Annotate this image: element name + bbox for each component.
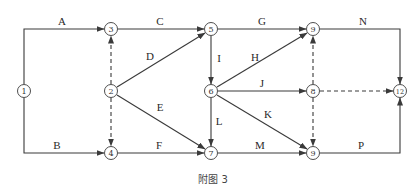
activity-d-label: D	[146, 50, 154, 62]
node-12: 12	[394, 85, 407, 98]
node-3-label: 3	[108, 25, 113, 34]
node-4-label: 4	[108, 149, 113, 158]
node-7-label: 7	[208, 149, 213, 158]
node-9-bottom-label: 9	[310, 149, 315, 158]
node-8-label: 8	[310, 87, 315, 96]
network-diagram: 1 2 3 4 5 6 7 9	[0, 0, 420, 193]
node-2-label: 2	[108, 87, 113, 96]
node-1-label: 1	[21, 87, 26, 96]
activity-e-label: E	[157, 101, 164, 113]
activity-g-label: G	[258, 15, 266, 27]
activity-h-label: H	[251, 51, 259, 63]
activity-m-label: M	[255, 139, 265, 151]
activity-j-label: J	[260, 77, 265, 89]
activity-a-label: A	[58, 15, 66, 27]
node-4: 4	[105, 147, 118, 160]
activity-i-label: I	[217, 52, 221, 64]
node-5: 5	[205, 23, 218, 36]
activity-n-arrow	[320, 29, 400, 84]
node-9-top: 9	[307, 23, 320, 36]
activity-n-label: N	[359, 15, 367, 27]
activity-p-label: P	[358, 139, 364, 151]
activity-b-label: B	[53, 139, 60, 151]
activity-d-arrow	[117, 33, 205, 87]
node-9-bottom: 9	[307, 147, 320, 160]
activity-c-label: C	[156, 15, 163, 27]
node-8: 8	[307, 85, 320, 98]
figure-caption: 附图 3	[198, 173, 228, 185]
node-7: 7	[205, 147, 218, 160]
node-6: 6	[205, 85, 218, 98]
activity-a-arrow	[24, 29, 104, 84]
activity-k-label: K	[264, 108, 272, 120]
activity-b-arrow	[24, 98, 104, 153]
node-9-top-label: 9	[310, 25, 315, 34]
node-12-label: 12	[396, 88, 404, 96]
node-5-label: 5	[208, 25, 213, 34]
node-2: 2	[105, 85, 118, 98]
activity-f-label: F	[156, 139, 162, 151]
node-1: 1	[18, 85, 31, 98]
node-3: 3	[105, 23, 118, 36]
node-6-label: 6	[208, 87, 213, 96]
activity-l-label: L	[216, 115, 223, 127]
